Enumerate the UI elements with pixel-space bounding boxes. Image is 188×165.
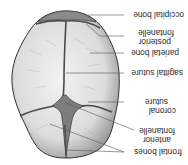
- label-anterior-fontanelle-line2: fontanelle: [139, 126, 175, 136]
- label-posterior-fontanelle-line2: fontanelle: [138, 28, 174, 38]
- label-coronal-suture-line2: suture: [145, 97, 168, 107]
- label-frontal-bones: frontal bones: [134, 147, 182, 157]
- labels: occipital bone posterior fontanelle pari…: [131, 10, 184, 157]
- label-occipital-bone: occipital bone: [133, 10, 184, 20]
- skull-diagram: occipital bone posterior fontanelle pari…: [0, 0, 188, 165]
- label-sagittal-suture: sagittal suture: [131, 68, 183, 78]
- label-parietal-bone: parietal bone: [131, 48, 179, 58]
